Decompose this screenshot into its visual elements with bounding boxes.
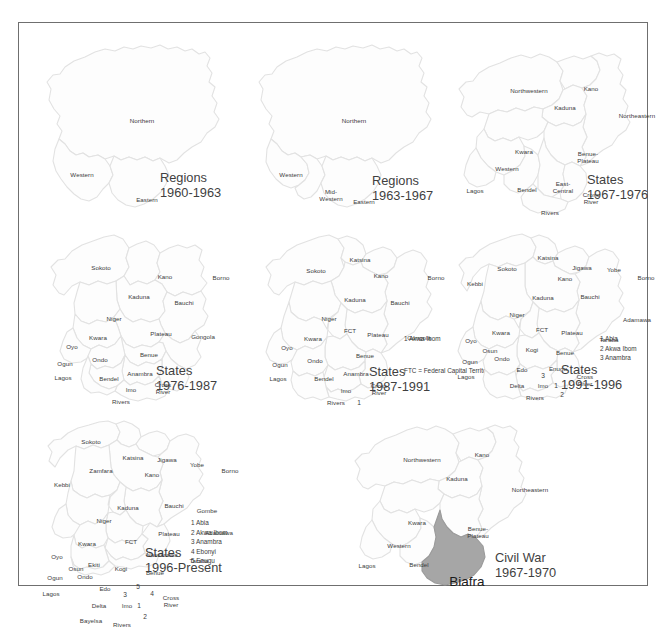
map-label: Jigawa bbox=[157, 456, 177, 463]
legend-entry: 1 Abia bbox=[600, 334, 637, 344]
map-label: Western bbox=[387, 542, 410, 549]
panel-title-line2: 1963-1967 bbox=[372, 188, 433, 203]
map-label: Plateau bbox=[158, 530, 179, 537]
map-label: Kwara bbox=[89, 334, 107, 341]
map-label: 1 bbox=[554, 382, 558, 389]
map-label: East- Central bbox=[553, 180, 573, 194]
panel-title-line1: States bbox=[587, 172, 623, 187]
map-label: Kaduna bbox=[117, 504, 139, 511]
map-label: Katsina bbox=[350, 256, 371, 263]
map-panel-states-1976-1987: SokotoKanoBornoKadunaBauchiNigerPlateauG… bbox=[29, 215, 244, 410]
panel-title-line2: 1967-1970 bbox=[495, 565, 556, 580]
legend-entry: 2 Akwa Ibom bbox=[191, 528, 228, 538]
map-label: Western bbox=[70, 171, 93, 178]
map-label: Benue- Plateau bbox=[467, 525, 488, 539]
map-label: Bendel bbox=[517, 186, 537, 193]
map-label: Plateau bbox=[561, 329, 582, 336]
figure-frame: NorthernWesternEastern Regions1960-1963 … bbox=[18, 22, 648, 586]
panel-title-line2: 1967-1976 bbox=[587, 187, 648, 202]
panel-title-line2: 1987-1991 bbox=[369, 379, 430, 394]
legend-entry: 1 Abia bbox=[191, 518, 228, 528]
map-label: Kaduna bbox=[554, 104, 576, 111]
map-label: Kaduna bbox=[532, 294, 554, 301]
map-label: Northwestern bbox=[403, 456, 440, 463]
map-label: Bendel bbox=[314, 375, 334, 382]
map-legend: 1 Abia2 Akwa Ibom3 Anambra bbox=[600, 334, 637, 363]
map-label: Sokoto bbox=[497, 265, 517, 272]
map-label: Sokoto bbox=[91, 264, 111, 271]
map-label: Northern bbox=[130, 117, 154, 124]
map-label: Bayelsa bbox=[80, 617, 102, 624]
map-label: Ondo bbox=[307, 357, 322, 364]
panel-title: Regions1960-1963 bbox=[160, 171, 221, 200]
map-label: Bauchi bbox=[390, 299, 409, 306]
map-label: Kwara bbox=[304, 335, 322, 342]
panel-title: Regions1963-1967 bbox=[372, 174, 433, 203]
panel-title: States1991-1996 bbox=[561, 363, 622, 392]
map-legend: 1 Abia2 Akwa Ibom3 Anambra4 Ebonyi5 Enug… bbox=[191, 518, 228, 566]
map-label: Edo bbox=[516, 366, 527, 373]
map-panel-states-1991-1996: KatsinaSokotoJigawaYobeKanoBornoKebbiKad… bbox=[439, 215, 654, 410]
map-label: Bauchi bbox=[580, 293, 599, 300]
map-label: 5 bbox=[136, 583, 140, 590]
map-label: Ondo bbox=[494, 355, 509, 362]
map-label: Borno bbox=[222, 467, 239, 474]
map-label: 2 bbox=[143, 613, 147, 620]
map-label: Yobe bbox=[190, 461, 204, 468]
map-label: FCT bbox=[344, 327, 356, 334]
map-label: Niger bbox=[96, 517, 111, 524]
panel-title: States1967-1976 bbox=[587, 173, 648, 202]
map-label: Imo bbox=[341, 387, 351, 394]
map-label: Mid- Western bbox=[319, 188, 342, 202]
map-label: Northern bbox=[342, 117, 366, 124]
map-label: Imo bbox=[122, 602, 132, 609]
map-label: Ogun bbox=[462, 358, 477, 365]
map-label: Anambra bbox=[343, 370, 368, 377]
map-label: Northeastern bbox=[619, 112, 655, 119]
map-label: Benue bbox=[140, 351, 158, 358]
map-label: Ondo bbox=[77, 573, 92, 580]
map-label: 3 bbox=[123, 591, 127, 598]
map-label: Ogun bbox=[47, 574, 62, 581]
map-label: Kwara bbox=[492, 329, 510, 336]
panel-title-line1: States bbox=[369, 364, 405, 379]
map-label: Edo bbox=[99, 585, 110, 592]
legend-entry: 3 Anambra bbox=[600, 353, 637, 363]
map-label: Sokoto bbox=[81, 438, 101, 445]
map-label: Benue- Plateau bbox=[577, 150, 598, 164]
legend-entry: 4 Ebonyi bbox=[191, 547, 228, 557]
map-label: Osun bbox=[69, 565, 84, 572]
map-label: Benue bbox=[356, 352, 374, 359]
map-label: Lagos bbox=[269, 375, 286, 382]
panel-title-line1: Regions bbox=[160, 170, 207, 185]
map-label: Plateau bbox=[367, 331, 388, 338]
map-panel-states-1996-present: SokotoKatsinaJigawaZamfaraKanoYobeBornoK… bbox=[29, 405, 269, 585]
map-label: Oyo bbox=[66, 343, 78, 350]
map-label: Rivers bbox=[526, 394, 544, 401]
map-label: FCT bbox=[536, 326, 548, 333]
map-label: Katsina bbox=[538, 254, 559, 261]
map-panel-regions-1963-1967: NorthernWesternMid- WesternEastern Regio… bbox=[241, 27, 456, 212]
map-label: Ogun bbox=[57, 360, 72, 367]
map-label: 2 bbox=[560, 391, 564, 398]
legend-entry: 5 Enugu bbox=[191, 556, 228, 566]
map-label: Kwara bbox=[408, 519, 426, 526]
map-label: Yobe bbox=[607, 266, 621, 273]
map-label: Lagos bbox=[54, 374, 71, 381]
map-label: Oyo bbox=[281, 344, 293, 351]
map-label: Oyo bbox=[51, 553, 63, 560]
map-label: Plateau bbox=[150, 330, 171, 337]
map-label: Bendel bbox=[409, 561, 429, 568]
panel-title-line2: 1991-1996 bbox=[561, 377, 622, 392]
map-label: Adamawa bbox=[623, 316, 651, 323]
panel-title: States1976-1987 bbox=[156, 364, 217, 393]
map-label: Osun bbox=[483, 347, 498, 354]
map-label: Bendel bbox=[99, 375, 119, 382]
map-label: Bauchi bbox=[174, 299, 193, 306]
map-label: Biafra bbox=[449, 578, 484, 585]
map-label: Delta bbox=[510, 382, 525, 389]
panel-title-line1: States bbox=[561, 362, 597, 377]
legend-entry: 2 Akwa Ibom bbox=[600, 344, 637, 354]
map-label: Lagos bbox=[42, 590, 59, 597]
map-label: Kano bbox=[558, 275, 573, 282]
